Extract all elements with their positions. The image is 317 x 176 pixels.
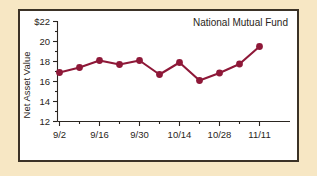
data-point [136,57,143,64]
y-tick-label-22: $22 [34,16,50,27]
x-tick-label-1: 9/16 [90,129,109,140]
data-point [236,61,243,68]
data-point [256,43,263,50]
series-markers [56,43,263,84]
data-point [76,64,83,71]
chart-title: National Mutual Fund [193,17,288,28]
data-point [116,61,123,68]
x-tick-label-2: 9/30 [130,129,149,140]
y-tick-label-18: 18 [39,56,50,67]
data-point [96,57,103,64]
x-tick-label-0: 9/2 [53,129,66,140]
data-point [216,70,223,77]
x-tick-label-4: 10/28 [208,129,232,140]
y-tick-label-16: 16 [39,76,50,87]
y-axis-title: Net Asset Value [21,52,32,119]
data-point [56,69,63,76]
y-tick-label-20: 20 [39,36,50,47]
data-point [156,71,163,78]
chart-figure: Net Asset Value National Mutual Fund $22… [0,0,317,176]
line-chart: Net Asset Value National Mutual Fund $22… [0,0,317,176]
x-tick-label-5: 11/11 [248,129,270,140]
x-tick-label-3: 10/14 [168,129,192,140]
x-axis-ticks [60,122,260,127]
data-point [196,77,203,84]
y-tick-label-14: 14 [39,96,50,107]
y-tick-label-12: 12 [39,116,50,127]
data-point [176,59,183,66]
